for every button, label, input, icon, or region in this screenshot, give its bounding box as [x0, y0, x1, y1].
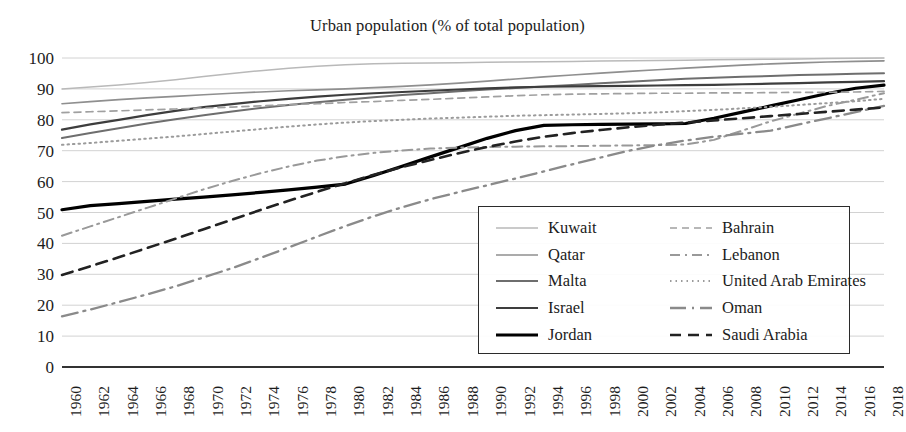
x-axis-tick-label: 2018 [890, 386, 906, 417]
series-line-united-arab-emirates [62, 99, 884, 145]
legend-item-lebanon[interactable]: Lebanon [669, 242, 866, 269]
legend-item-qatar[interactable]: Qatar [495, 242, 597, 269]
legend-swatch-icon [669, 274, 713, 288]
legend-swatch-icon [495, 301, 539, 315]
y-axis-tick-label: 70 [8, 143, 54, 160]
legend-swatch-icon [495, 221, 539, 235]
legend-item-israel[interactable]: Israel [495, 295, 597, 322]
legend-swatch-icon [669, 221, 713, 235]
x-axis-tick-label: 1994 [550, 386, 566, 417]
y-axis-tick-label: 90 [8, 81, 54, 98]
x-axis-tick-label: 1988 [465, 386, 481, 417]
legend-label: Saudi Arabia [722, 325, 808, 345]
legend-label: United Arab Emirates [722, 271, 866, 291]
y-axis-tick-label: 80 [8, 112, 54, 129]
legend-item-kuwait[interactable]: Kuwait [495, 215, 597, 242]
x-axis-tick-label: 2014 [833, 386, 849, 417]
y-axis-tick-label: 40 [8, 235, 54, 252]
x-axis-tick-label: 1968 [181, 386, 197, 417]
x-axis-tick-label: 1980 [351, 386, 367, 417]
x-axis-tick-label: 1998 [607, 386, 623, 417]
legend-swatch-icon [669, 248, 713, 262]
x-axis-tick-label: 1996 [578, 386, 594, 417]
x-axis-tick-label: 1982 [380, 386, 396, 417]
legend-item-united-arab-emirates[interactable]: United Arab Emirates [669, 268, 866, 295]
x-axis-tick-label: 2004 [692, 386, 708, 417]
y-axis-tick-label: 30 [8, 266, 54, 283]
x-axis-tick-label: 2006 [720, 386, 736, 417]
legend-item-malta[interactable]: Malta [495, 268, 597, 295]
y-axis-tick-label: 10 [8, 328, 54, 345]
x-axis-tick-label: 2008 [748, 386, 764, 417]
legend-swatch-icon [495, 328, 539, 342]
x-axis-tick-label: 1972 [238, 386, 254, 417]
x-axis-tick-label: 1978 [323, 386, 339, 417]
legend-label: Bahrain [722, 218, 774, 238]
legend-label: Israel [548, 298, 585, 318]
x-axis-tick-label: 2016 [862, 386, 878, 417]
x-axis-tick-label: 1976 [295, 386, 311, 417]
x-axis-tick-label: 1964 [125, 386, 141, 417]
x-axis-tick-label: 1974 [266, 386, 282, 417]
legend-label: Kuwait [548, 218, 597, 238]
x-axis-tick-label: 1984 [408, 386, 424, 417]
x-axis-tick-label: 1990 [493, 386, 509, 417]
x-axis-tick-label: 1986 [436, 386, 452, 417]
legend-label: Qatar [548, 245, 585, 265]
x-axis-tick-label: 2012 [805, 386, 821, 417]
legend-label: Oman [722, 298, 762, 318]
legend-swatch-icon [495, 248, 539, 262]
legend-item-jordan[interactable]: Jordan [495, 321, 597, 348]
chart-legend: KuwaitQatarMaltaIsraelJordan BahrainLeba… [478, 206, 850, 354]
x-axis-tick-label: 1992 [522, 386, 538, 417]
legend-label: Lebanon [722, 245, 780, 265]
legend-column-left: KuwaitQatarMaltaIsraelJordan [495, 215, 597, 348]
x-axis-tick-label: 1966 [153, 386, 169, 417]
legend-column-right: BahrainLebanonUnited Arab EmiratesOmanSa… [669, 215, 866, 348]
legend-label: Malta [548, 271, 587, 291]
x-axis-tick-label: 1960 [68, 386, 84, 417]
x-axis-tick-label: 1962 [96, 386, 112, 417]
legend-item-oman[interactable]: Oman [669, 295, 866, 322]
y-axis-tick-label: 50 [8, 205, 54, 222]
legend-item-saudi-arabia[interactable]: Saudi Arabia [669, 321, 866, 348]
legend-swatch-icon [669, 328, 713, 342]
y-axis-tick-label: 100 [8, 50, 54, 67]
y-axis-tick-label: 0 [8, 359, 54, 376]
x-axis-tick-label: 1970 [210, 386, 226, 417]
x-axis-tick-label: 2002 [663, 386, 679, 417]
legend-swatch-icon [669, 301, 713, 315]
y-axis-tick-label: 20 [8, 297, 54, 314]
legend-swatch-icon [495, 274, 539, 288]
y-axis-tick-label: 60 [8, 174, 54, 191]
x-axis-tick-label: 2010 [777, 386, 793, 417]
legend-item-bahrain[interactable]: Bahrain [669, 215, 866, 242]
x-axis-tick-label: 2000 [635, 386, 651, 417]
legend-label: Jordan [548, 325, 592, 345]
